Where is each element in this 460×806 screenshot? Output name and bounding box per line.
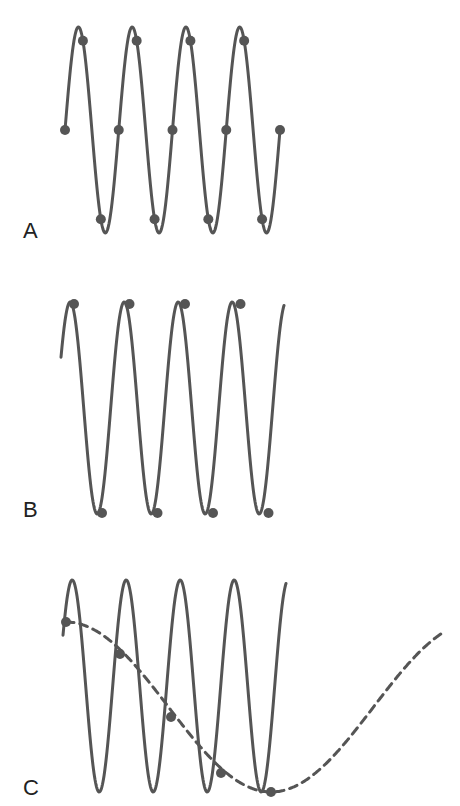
panel-c-label: C	[23, 775, 39, 801]
sample-point	[115, 649, 125, 659]
sample-point	[216, 768, 226, 778]
sine-wave	[63, 580, 286, 792]
sample-point	[166, 712, 176, 722]
panel-c-figure	[0, 0, 460, 806]
sample-point	[61, 617, 71, 627]
panel-c: C	[0, 0, 460, 806]
sample-point	[266, 787, 276, 797]
